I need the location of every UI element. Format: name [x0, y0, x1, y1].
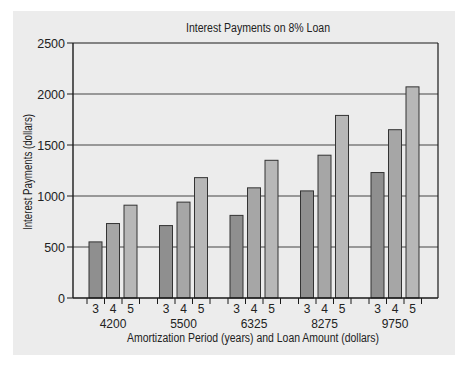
bar-4200-3yr: [89, 242, 102, 298]
bar-5500-5yr: [195, 178, 208, 298]
x-category-label: 5500: [170, 317, 197, 331]
bar-chart: Interest Payments on 8% Loan 05001000150…: [0, 0, 465, 368]
y-tick-label: 1500: [37, 139, 65, 153]
x-subcategory-label: 3: [374, 302, 381, 316]
x-subcategory-label: 5: [127, 302, 134, 316]
bar-6325-3yr: [230, 215, 243, 298]
x-axis-label: Amortization Period (years) and Loan Amo…: [127, 331, 379, 345]
bar-6325-5yr: [265, 160, 278, 298]
bar-9750-5yr: [406, 87, 419, 298]
x-subcategory-label: 3: [92, 302, 99, 316]
x-subcategory-label: 5: [198, 302, 205, 316]
x-subcategory-label: 4: [180, 302, 187, 316]
bar-5500-3yr: [160, 226, 173, 298]
bar-9750-4yr: [389, 130, 402, 298]
bar-5500-4yr: [177, 202, 190, 298]
x-category-label: 8275: [311, 317, 338, 331]
bar-6325-4yr: [248, 188, 261, 298]
bar-4200-5yr: [124, 205, 137, 298]
y-axis-label: Interest Payments (dollars): [21, 114, 35, 230]
x-subcategory-label: 3: [304, 302, 311, 316]
y-tick-label: 2000: [37, 88, 65, 102]
bar-4200-4yr: [107, 224, 120, 298]
x-subcategory-label: 3: [233, 302, 240, 316]
bar-8275-5yr: [336, 115, 349, 298]
y-tick-label: 500: [44, 241, 65, 255]
bar-9750-3yr: [371, 173, 384, 298]
bar-8275-3yr: [301, 191, 314, 298]
x-subcategory-label: 5: [268, 302, 275, 316]
x-subcategory-label: 4: [110, 302, 117, 316]
bars: [89, 87, 419, 298]
x-subcategory-label: 5: [339, 302, 346, 316]
x-subcategory-label: 4: [392, 302, 399, 316]
y-tick-label: 1000: [37, 190, 65, 204]
y-axis-tick-labels: 05001000150020002500: [37, 37, 65, 306]
x-category-label: 4200: [100, 317, 127, 331]
x-subcategory-label: 5: [409, 302, 416, 316]
bar-8275-4yr: [318, 155, 331, 298]
y-tick-label: 0: [58, 292, 65, 306]
x-subcategory-label: 3: [163, 302, 170, 316]
x-subcategory-label: 4: [321, 302, 328, 316]
x-axis-tick-labels: 34542003455500345632534582753459750: [92, 302, 416, 331]
x-category-label: 9750: [382, 317, 409, 331]
y-tick-label: 2500: [37, 37, 65, 51]
x-category-label: 6325: [241, 317, 268, 331]
x-subcategory-label: 4: [251, 302, 258, 316]
chart-title: Interest Payments on 8% Loan: [186, 21, 330, 35]
